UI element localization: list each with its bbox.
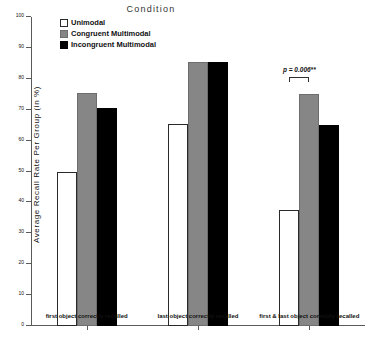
x-axis-tick [309, 326, 310, 330]
y-axis-tick: 80 [26, 78, 31, 79]
legend-title: Condition [60, 4, 230, 14]
significance-bracket [289, 77, 309, 82]
bar [57, 172, 77, 327]
legend-entry-label: Incongruent Multimodal [71, 40, 156, 49]
bar [188, 62, 208, 326]
x-axis-category-label: last object correctly recalled [157, 313, 238, 319]
legend-entry-label: Unimodal [71, 18, 105, 27]
bar [97, 108, 117, 326]
legend: Condition UnimodalCongruent MultimodalIn… [60, 4, 230, 50]
y-axis-tick-label: 80 [18, 74, 24, 80]
y-axis-tick-label: 90 [18, 43, 24, 49]
legend-swatch-icon [60, 30, 68, 38]
y-axis-tick: 60 [26, 140, 31, 141]
y-axis-tick-label: 60 [18, 136, 24, 142]
legend-entry: Congruent Multimodal [60, 28, 230, 39]
x-axis-category-label: first & last object correctly recalled [259, 313, 359, 319]
y-axis-tick: 10 [26, 294, 31, 295]
bar [279, 210, 299, 326]
significance-p-value-label: p = 0.006** [283, 66, 316, 73]
y-axis-tick: 20 [26, 263, 31, 264]
x-axis-tick [87, 326, 88, 330]
legend-swatch-icon [60, 41, 68, 49]
legend-entry: Incongruent Multimodal [60, 39, 230, 50]
legend-entries: UnimodalCongruent MultimodalIncongruent … [60, 17, 230, 50]
bar-chart-figure: Average Recall Rate Per Group (in %) 010… [0, 0, 371, 354]
bar [77, 93, 97, 326]
y-axis-tick: 70 [26, 109, 31, 110]
bar [168, 124, 188, 326]
y-axis-tick-label: 10 [18, 290, 24, 296]
x-axis-category-label: first object correctly recalled [46, 313, 128, 319]
y-axis-tick: 30 [26, 232, 31, 233]
y-axis-tick: 100 [26, 16, 31, 17]
y-axis-tick-label: 30 [18, 228, 24, 234]
x-axis-tick [198, 326, 199, 330]
bar [208, 62, 228, 326]
bar [299, 94, 319, 326]
legend-entry-label: Congruent Multimodal [71, 29, 151, 38]
y-axis-tick: 40 [26, 201, 31, 202]
y-axis-tick-label: 50 [18, 167, 24, 173]
y-axis-tick-label: 20 [18, 259, 24, 265]
y-axis-tick: 50 [26, 171, 31, 172]
legend-swatch-icon [60, 19, 68, 27]
y-axis-tick-label: 0 [21, 321, 24, 327]
legend-entry: Unimodal [60, 17, 230, 28]
y-axis-tick: 0 [26, 325, 31, 326]
y-axis-tick-label: 70 [18, 105, 24, 111]
plot-area: 0102030405060708090100 p = 0.006** [31, 17, 365, 326]
y-axis-tick-label: 100 [16, 12, 24, 18]
y-axis-tick: 90 [26, 47, 31, 48]
bar [319, 125, 339, 326]
y-axis-tick-label: 40 [18, 197, 24, 203]
y-axis-line [31, 17, 32, 326]
